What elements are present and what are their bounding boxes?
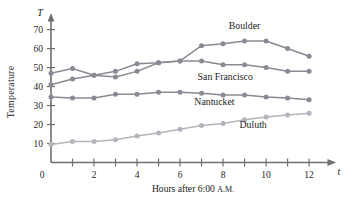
y-axis-title: Temperature <box>5 65 16 118</box>
data-point <box>264 38 269 43</box>
data-point <box>156 60 161 65</box>
data-point <box>135 133 140 138</box>
data-point <box>307 111 312 116</box>
data-point <box>113 69 118 74</box>
data-point <box>307 97 312 102</box>
temperature-line-chart: 10203040506070 024681012 BoulderSan Fran… <box>0 0 352 211</box>
series-label-san-francisco: San Francisco <box>198 71 253 82</box>
x-tick-label-2: 2 <box>92 170 97 180</box>
data-point <box>70 139 75 144</box>
data-point <box>221 62 226 67</box>
data-point <box>135 92 140 97</box>
x-axis-variable-label: t <box>338 166 341 177</box>
data-point <box>307 69 312 74</box>
x-tick-label-8: 8 <box>221 170 226 180</box>
data-point <box>135 61 140 66</box>
series-label-duluth: Duluth <box>240 119 267 130</box>
data-point <box>70 76 75 81</box>
data-point <box>70 95 75 100</box>
y-tick-label-30: 30 <box>34 101 44 111</box>
data-point <box>199 123 204 128</box>
data-point <box>285 69 290 74</box>
data-point <box>49 95 54 100</box>
series-label-nantucket: Nantucket <box>194 96 235 107</box>
data-point <box>156 131 161 136</box>
data-point <box>221 41 226 46</box>
y-tick-label-50: 50 <box>34 63 44 73</box>
data-point <box>264 95 269 100</box>
y-tick-label-60: 60 <box>34 44 44 54</box>
data-point <box>221 121 226 126</box>
data-point <box>242 93 247 98</box>
data-point <box>242 62 247 67</box>
data-point <box>92 139 97 144</box>
x-tick-group: 024681012 <box>40 159 314 180</box>
data-point <box>49 142 54 147</box>
data-point <box>70 66 75 71</box>
x-tick-label-0: 0 <box>40 170 45 180</box>
x-axis-title: Hours after 6:00 A.M. <box>152 183 234 194</box>
data-point <box>113 137 118 142</box>
series-label-boulder: Boulder <box>229 20 261 31</box>
data-point <box>49 82 54 87</box>
y-axis-variable-label: T <box>37 7 44 18</box>
series-duluth <box>49 111 312 147</box>
data-point <box>264 65 269 70</box>
data-point <box>156 90 161 95</box>
y-tick-label-40: 40 <box>34 82 44 92</box>
data-point <box>199 43 204 48</box>
data-point <box>307 54 312 59</box>
data-point <box>92 73 97 78</box>
data-point <box>285 113 290 118</box>
data-point <box>242 38 247 43</box>
series-nantucket <box>49 90 312 103</box>
x-tick-label-10: 10 <box>261 170 271 180</box>
data-point <box>285 95 290 100</box>
data-point <box>178 90 183 95</box>
data-point <box>199 58 204 63</box>
series-annotations: BoulderSan FranciscoNantucketDuluth <box>194 20 267 131</box>
series-group <box>49 38 312 146</box>
y-tick-label-20: 20 <box>34 120 44 130</box>
y-tick-label-70: 70 <box>34 25 44 35</box>
chart-figure: 10203040506070 024681012 BoulderSan Fran… <box>0 0 352 211</box>
series-san-francisco <box>49 58 312 77</box>
data-point <box>113 92 118 97</box>
data-point <box>92 95 97 100</box>
data-point <box>178 127 183 132</box>
data-point <box>113 75 118 80</box>
data-point <box>135 69 140 74</box>
x-axis-arrowhead <box>328 159 337 166</box>
data-point <box>178 58 183 63</box>
data-point <box>285 46 290 51</box>
data-point <box>49 71 54 76</box>
x-tick-label-6: 6 <box>178 170 183 180</box>
y-tick-label-10: 10 <box>34 139 44 149</box>
axes-group <box>48 13 336 166</box>
x-tick-label-12: 12 <box>304 170 314 180</box>
y-axis-arrowhead <box>48 13 55 22</box>
x-tick-label-4: 4 <box>135 170 140 180</box>
